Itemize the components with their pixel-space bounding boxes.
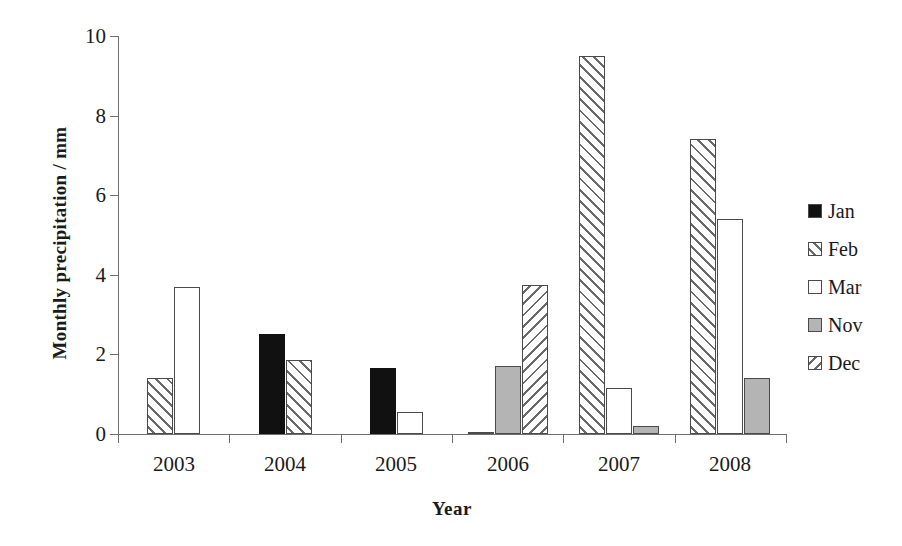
bar-2007-nov bbox=[633, 426, 659, 434]
y-tick-label: 2 bbox=[96, 342, 107, 367]
x-group-label: 2008 bbox=[709, 452, 751, 477]
bar-2004-jan bbox=[259, 334, 285, 434]
legend-item-jan[interactable]: Jan bbox=[808, 192, 862, 230]
x-tick-mark bbox=[675, 434, 676, 443]
x-group-label: 2007 bbox=[598, 452, 640, 477]
legend: JanFebMarNovDec bbox=[808, 192, 862, 382]
y-tick-mark bbox=[110, 36, 118, 37]
plot-area: 0246810 200320042005200620072008 bbox=[118, 36, 786, 434]
x-axis-title: Year bbox=[118, 498, 786, 520]
x-tick-mark bbox=[118, 434, 119, 443]
bar-2008-feb bbox=[690, 139, 716, 434]
bar-2006-nov bbox=[495, 366, 521, 434]
bar-2008-nov bbox=[744, 378, 770, 434]
x-tick-mark bbox=[786, 434, 787, 443]
x-group-label: 2004 bbox=[264, 452, 306, 477]
bar-2005-mar bbox=[397, 412, 423, 434]
x-group-label: 2003 bbox=[153, 452, 195, 477]
y-tick-label: 4 bbox=[96, 262, 107, 287]
bar-2005-jan bbox=[370, 368, 396, 434]
x-tick-mark bbox=[341, 434, 342, 443]
legend-label: Feb bbox=[828, 239, 858, 259]
legend-item-nov[interactable]: Nov bbox=[808, 306, 862, 344]
bar-2008-mar bbox=[717, 219, 743, 434]
y-tick-mark bbox=[110, 116, 118, 117]
legend-swatch-icon bbox=[808, 280, 822, 294]
legend-label: Jan bbox=[828, 201, 855, 221]
bar-2007-feb bbox=[579, 56, 605, 434]
y-tick-mark bbox=[110, 354, 118, 355]
y-tick-label: 6 bbox=[96, 183, 107, 208]
bar-2006-mar bbox=[468, 432, 494, 434]
bar-2004-feb bbox=[286, 360, 312, 434]
y-tick-label: 0 bbox=[96, 422, 107, 447]
y-axis-title: Monthly precipitation / mm bbox=[49, 43, 71, 443]
legend-item-dec[interactable]: Dec bbox=[808, 344, 862, 382]
legend-label: Nov bbox=[828, 315, 862, 335]
y-tick-mark bbox=[110, 275, 118, 276]
legend-swatch-icon bbox=[808, 204, 822, 218]
precipitation-bar-chart: Monthly precipitation / mm 0246810 20032… bbox=[0, 0, 902, 546]
x-group-label: 2005 bbox=[375, 452, 417, 477]
y-tick-mark bbox=[110, 195, 118, 196]
x-tick-mark bbox=[452, 434, 453, 443]
legend-label: Mar bbox=[828, 277, 861, 297]
y-tick-mark bbox=[110, 434, 118, 435]
x-tick-mark bbox=[563, 434, 564, 443]
bar-2003-mar bbox=[174, 287, 200, 434]
bar-2006-dec bbox=[522, 285, 548, 434]
bar-2003-feb bbox=[147, 378, 173, 434]
bar-2007-mar bbox=[606, 388, 632, 434]
x-tick-mark bbox=[229, 434, 230, 443]
y-tick-label: 10 bbox=[85, 24, 106, 49]
legend-swatch-icon bbox=[808, 318, 822, 332]
legend-swatch-icon bbox=[808, 242, 822, 256]
legend-item-mar[interactable]: Mar bbox=[808, 268, 862, 306]
legend-label: Dec bbox=[828, 353, 860, 373]
x-group-label: 2006 bbox=[487, 452, 529, 477]
bars-layer bbox=[118, 36, 786, 434]
y-tick-label: 8 bbox=[96, 103, 107, 128]
legend-item-feb[interactable]: Feb bbox=[808, 230, 862, 268]
legend-swatch-icon bbox=[808, 356, 822, 370]
